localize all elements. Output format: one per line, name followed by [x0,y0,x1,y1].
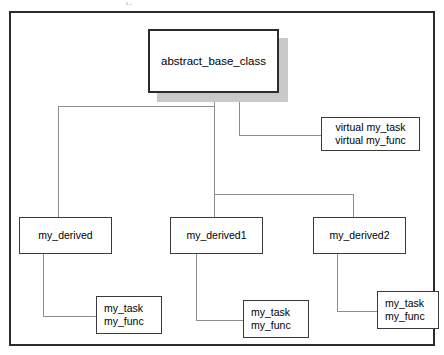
virtual-my-task-label: virtual my_task [335,121,405,134]
virtual-my-func-label: virtual my_func [335,134,406,147]
my-derived1-my-func-label: my_func [251,319,291,332]
scan-artifact-strip [0,0,444,7]
connector-derived2-drop [353,194,354,217]
my-derived1-label: my_derived1 [186,229,246,242]
my-derived2-label: my_derived2 [329,229,389,242]
diagram-canvas: abstract_base_class virtual my_task virt… [0,0,444,355]
connector-derived-to-methods-vertical [43,254,44,316]
my-derived2-my-task-label: my_task [385,297,424,310]
abstract-base-class-label: abstract_base_class [161,55,266,68]
connector-base-to-derived-horizontal [58,106,215,107]
node-my-derived2-methods[interactable]: my_task my_func [377,291,439,329]
connector-derived2-to-methods-vertical [337,254,338,311]
connector-derived2-to-methods-horizontal [337,311,377,312]
node-abstract-base-class[interactable]: abstract_base_class [148,29,279,93]
my-derived-my-func-label: my_func [104,315,144,328]
my-derived-my-task-label: my_task [104,302,143,315]
connector-spine-to-derived2-horizontal [214,194,353,195]
node-my-derived1[interactable]: my_derived1 [170,217,263,254]
my-derived1-my-task-label: my_task [251,306,290,319]
node-my-derived2[interactable]: my_derived2 [313,217,406,254]
node-my-derived[interactable]: my_derived [19,217,112,254]
my-derived2-my-func-label: my_func [385,310,425,323]
connector-derived1-to-methods-vertical [196,254,197,320]
connector-derived1-to-methods-horizontal [196,320,243,321]
my-derived-label: my_derived [38,229,92,242]
node-virtual-methods[interactable]: virtual my_task virtual my_func [321,117,420,151]
connector-derived-to-methods-horizontal [43,316,96,317]
scan-speck [126,2,128,5]
scan-speck [129,4,132,5]
connector-base-to-virtual-horizontal [239,135,321,136]
connector-derived-drop [58,106,59,217]
node-my-derived-methods[interactable]: my_task my_func [96,296,162,334]
node-my-derived1-methods[interactable]: my_task my_func [243,300,309,338]
connector-spine-vertical [214,106,215,217]
